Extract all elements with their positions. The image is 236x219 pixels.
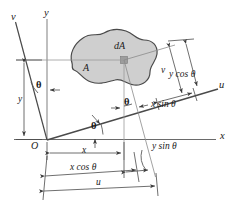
dim-label-x-bottom: x bbox=[82, 146, 86, 156]
area-label: A bbox=[83, 63, 89, 73]
y-axis-label: y bbox=[44, 8, 49, 19]
area-blob bbox=[71, 29, 157, 85]
dim-label-y-left: y bbox=[18, 95, 22, 105]
x-axis-label: x bbox=[220, 131, 225, 142]
dim-xcos-ext-left bbox=[43, 156, 47, 200]
dim-label-y-cos-theta: y cos θ bbox=[169, 70, 195, 80]
dim-u-bottom bbox=[44, 173, 158, 196]
dim-label-x-sin-theta: x sin θ bbox=[151, 100, 176, 110]
dim-ycos-arrow bbox=[186, 44, 197, 86]
theta-label-upper-left: θ bbox=[36, 80, 41, 91]
theta-label-center: θ bbox=[124, 97, 129, 108]
dim-xcos-ext-right bbox=[134, 152, 139, 182]
theta-arc-ysin bbox=[141, 150, 146, 170]
dim-u-ext-right bbox=[156, 173, 158, 196]
moment-of-inertia-diagram: v y u x O A dA θ θ θ y v y cos θ x sin θ… bbox=[0, 0, 236, 219]
leader-theta-center-right bbox=[139, 105, 148, 107]
v-axis-label: v bbox=[11, 12, 16, 23]
dim-label-y-sin-theta: y sin θ bbox=[152, 142, 177, 152]
diagram-canvas bbox=[0, 0, 236, 219]
dim-xcos bbox=[43, 152, 139, 200]
theta-arc-origin bbox=[101, 124, 103, 135]
dim-label-v-right: v bbox=[161, 66, 165, 76]
theta-label-lower: θ bbox=[91, 121, 96, 132]
dim-xsin-ext-right bbox=[193, 88, 197, 101]
origin-label: O bbox=[31, 141, 38, 151]
da-element-label: dA bbox=[114, 41, 125, 51]
u-axis-line bbox=[47, 89, 218, 140]
dim-ycos-ext-top bbox=[168, 39, 194, 41]
dim-label-x-cos-theta: x cos θ bbox=[70, 163, 96, 173]
u-axis-label: u bbox=[219, 80, 224, 91]
dim-label-u-bottom: u bbox=[96, 178, 101, 188]
v-axis-line bbox=[16, 22, 48, 140]
